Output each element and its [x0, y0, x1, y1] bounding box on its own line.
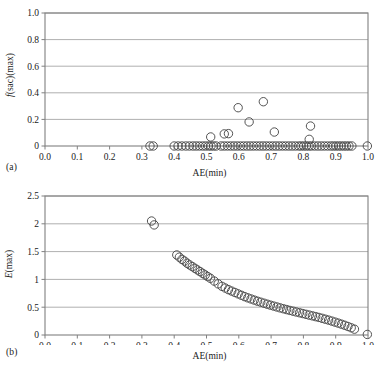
panel-b-label: (b): [6, 347, 18, 357]
x-tick-label: 0.7: [265, 341, 277, 345]
x-tick-label: 0.4: [168, 152, 180, 160]
y-tick-label: 1.0: [27, 8, 39, 18]
y-tick-label: 1: [34, 275, 39, 285]
y-tick-label: 0.8: [27, 35, 39, 45]
x-tick-label: 0.0: [39, 341, 51, 345]
x-tick-label: 0.5: [201, 341, 213, 345]
data-point: [234, 104, 242, 112]
x-tick-label: 0.9: [330, 341, 342, 345]
y-tick-label: 0.6: [27, 62, 39, 72]
panel-b: E(max) 0.00.10.20.30.40.50.60.70.80.91.0…: [0, 185, 379, 371]
y-tick-label: 0.5: [27, 303, 39, 313]
x-tick-label: 0.6: [233, 152, 245, 160]
data-point: [363, 330, 371, 338]
y-tick-label: 0.4: [27, 88, 39, 98]
x-tick-label: 0.0: [39, 152, 51, 160]
y-tick-label: 0.2: [27, 115, 39, 125]
x-tick-label: 0.4: [168, 341, 180, 345]
figure-container: f(sac)(max) 0.00.10.20.30.40.50.60.70.80…: [0, 0, 379, 371]
x-tick-label: 0.8: [297, 341, 309, 345]
y-tick-label: 0: [34, 141, 39, 151]
panel-b-plot: 0.00.10.20.30.40.50.60.70.80.91.000.511.…: [0, 185, 379, 345]
x-tick-label: 0.3: [136, 341, 148, 345]
data-point: [245, 118, 253, 126]
panel-b-x-axis-label: AE(min): [0, 351, 379, 361]
y-tick-label: 0: [34, 330, 39, 340]
panel-a-label: (a): [6, 162, 17, 172]
x-tick-label: 0.2: [104, 152, 116, 160]
data-point: [306, 122, 314, 130]
panel-a-x-axis-label: AE(min): [0, 168, 379, 178]
plot-frame: [45, 13, 368, 146]
x-tick-label: 0.8: [297, 152, 309, 160]
x-tick-label: 1.0: [362, 152, 374, 160]
data-series: [146, 98, 372, 151]
x-tick-label: 0.9: [330, 152, 342, 160]
x-tick-label: 0.7: [265, 152, 277, 160]
panel-a: f(sac)(max) 0.00.10.20.30.40.50.60.70.80…: [0, 0, 379, 186]
x-tick-label: 0.5: [201, 152, 213, 160]
x-tick-label: 0.1: [71, 341, 83, 345]
x-tick-label: 0.3: [136, 152, 148, 160]
data-point: [259, 98, 267, 106]
y-tick-label: 1.5: [27, 247, 39, 257]
panel-a-plot: 0.00.10.20.30.40.50.60.70.80.91.000.20.4…: [0, 0, 379, 160]
x-tick-label: 0.2: [104, 341, 116, 345]
data-series: [147, 217, 371, 339]
data-point: [270, 128, 278, 136]
x-tick-label: 0.1: [71, 152, 83, 160]
y-tick-label: 2.5: [27, 191, 39, 201]
y-tick-label: 2: [34, 219, 39, 229]
x-tick-label: 1.0: [362, 341, 374, 345]
data-point: [207, 133, 215, 141]
x-tick-label: 0.6: [233, 341, 245, 345]
